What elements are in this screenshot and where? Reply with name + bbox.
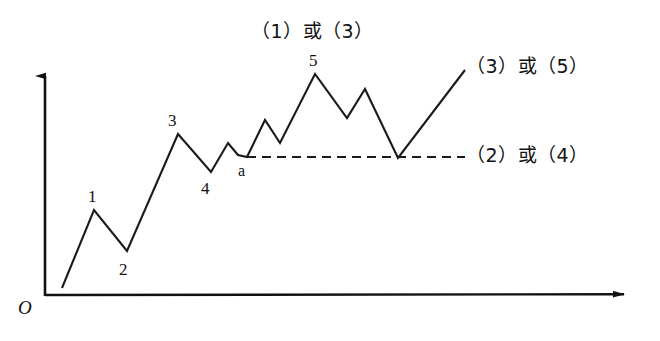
annotation-lower-right-wave-2-or-4: （2）或（4） bbox=[466, 146, 589, 165]
wave-label-4: 4 bbox=[201, 180, 210, 197]
annotation-upper-right-wave-3-or-5: （3）或（5） bbox=[466, 57, 589, 76]
wave-label-5: 5 bbox=[309, 52, 318, 69]
wave-label-a: a bbox=[238, 163, 245, 179]
elliott-wave-chart bbox=[0, 0, 660, 341]
wave-label-1: 1 bbox=[88, 188, 97, 205]
x-axis bbox=[45, 294, 624, 295]
wave-path bbox=[62, 70, 465, 288]
annotation-top-wave-1-or-3: （1）或（3） bbox=[251, 22, 374, 41]
wave-label-3: 3 bbox=[168, 112, 177, 129]
figure-canvas: 1 2 3 4 5 a （1）或（3） （3）或（5） （2）或（4） O bbox=[0, 0, 660, 341]
wave-label-2: 2 bbox=[119, 261, 128, 278]
origin-label: O bbox=[18, 298, 32, 317]
